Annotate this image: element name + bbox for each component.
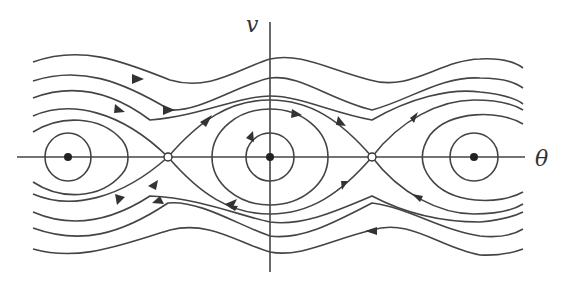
rotation-orbit-bottom-4	[33, 157, 168, 201]
rotation-orbit-bottom-3	[33, 196, 523, 223]
phase-portrait	[0, 0, 567, 287]
flow-arrow-icon	[132, 74, 144, 84]
flow-arrow-icon	[246, 131, 254, 142]
rotation-orbit-top-1	[33, 55, 523, 84]
flow-arrow-icon	[412, 194, 423, 202]
flow-arrow-icon	[115, 194, 125, 205]
flow-arrow-icon	[365, 227, 377, 235]
flow-arrow-icon	[341, 181, 348, 190]
theta-axis-label: θ	[535, 146, 548, 171]
center-left-point	[64, 153, 72, 161]
center-middle-point	[266, 153, 274, 161]
center-right-point	[470, 153, 478, 161]
v-axis-label: v	[246, 12, 258, 37]
rotation-orbit-top-4	[33, 109, 168, 157]
rotation-orbit-bottom-1	[33, 227, 523, 255]
separatrix-lower-right	[372, 157, 523, 214]
flow-arrow-icon	[336, 116, 346, 126]
flow-arrow-icon	[163, 105, 175, 115]
flow-arrow-icon	[114, 104, 125, 113]
saddle-right-point	[368, 153, 376, 161]
saddle-left-point	[164, 153, 172, 161]
flow-arrow-icon	[148, 180, 158, 190]
